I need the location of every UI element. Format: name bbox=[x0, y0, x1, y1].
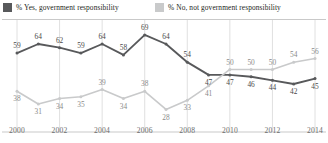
data-label: 69 bbox=[141, 23, 148, 32]
plot-area: 5964625964586964544747464442453831343539… bbox=[0, 20, 328, 143]
data-point bbox=[186, 99, 189, 102]
data-point bbox=[101, 88, 104, 91]
data-label: 64 bbox=[98, 32, 105, 41]
x-axis-tick-label: 2004 bbox=[94, 126, 110, 135]
data-point bbox=[37, 103, 40, 106]
data-label: 33 bbox=[184, 103, 191, 112]
data-label: 41 bbox=[205, 89, 212, 98]
data-label: 56 bbox=[311, 47, 318, 56]
data-label: 62 bbox=[56, 36, 63, 45]
data-point bbox=[101, 43, 104, 46]
data-label: 31 bbox=[35, 107, 42, 116]
data-label: 39 bbox=[98, 78, 105, 87]
data-label: 34 bbox=[56, 102, 63, 111]
legend-label-yes: % Yes, government responsibility bbox=[16, 3, 119, 12]
chart-legend: % Yes, government responsibility % No, n… bbox=[0, 0, 328, 20]
data-label: 47 bbox=[226, 78, 233, 87]
data-point bbox=[207, 73, 210, 76]
data-point bbox=[250, 75, 253, 78]
data-point bbox=[292, 61, 295, 64]
data-point bbox=[58, 97, 61, 100]
legend-label-no: % No, not government responsibility bbox=[168, 3, 281, 12]
data-point bbox=[250, 68, 253, 71]
data-label: 44 bbox=[269, 83, 276, 92]
data-label: 59 bbox=[13, 41, 20, 50]
chart-container: % Yes, government responsibility % No, n… bbox=[0, 0, 328, 143]
data-label: 64 bbox=[35, 32, 42, 41]
data-label: 45 bbox=[311, 82, 318, 91]
data-label: 54 bbox=[184, 50, 191, 59]
data-label: 38 bbox=[141, 79, 148, 88]
legend-swatch-yes bbox=[3, 3, 12, 12]
data-point bbox=[16, 90, 19, 93]
data-label: 64 bbox=[162, 32, 169, 41]
data-point bbox=[314, 77, 317, 80]
data-point bbox=[122, 97, 125, 100]
data-label: 28 bbox=[162, 113, 169, 122]
data-point bbox=[292, 83, 295, 86]
data-label: 38 bbox=[13, 94, 20, 103]
x-axis-tick-label: 2010 bbox=[222, 126, 238, 135]
data-point bbox=[228, 73, 231, 76]
data-label: 34 bbox=[120, 102, 127, 111]
data-label: 50 bbox=[269, 58, 276, 67]
data-label: 50 bbox=[247, 58, 254, 67]
data-point bbox=[79, 95, 82, 98]
x-axis-tick-label: 2012 bbox=[264, 126, 280, 135]
data-point bbox=[79, 52, 82, 55]
data-point bbox=[271, 79, 274, 82]
data-label: 59 bbox=[77, 41, 84, 50]
data-point bbox=[165, 108, 168, 111]
data-point bbox=[58, 46, 61, 49]
data-point bbox=[228, 68, 231, 71]
data-label: 54 bbox=[290, 50, 297, 59]
data-point bbox=[271, 68, 274, 71]
data-label: 42 bbox=[290, 87, 297, 96]
data-label: 47 bbox=[205, 78, 212, 87]
data-point bbox=[143, 33, 146, 36]
x-axis-tick-label: 2002 bbox=[52, 126, 68, 135]
x-axis-tick-label: 2006 bbox=[137, 126, 153, 135]
data-point bbox=[16, 52, 19, 55]
x-axis-labels: 20002002200420062008201020122014 bbox=[0, 126, 328, 143]
data-point bbox=[186, 61, 189, 64]
x-axis-tick-label: 2008 bbox=[179, 126, 195, 135]
data-point bbox=[165, 43, 168, 46]
legend-item-yes: % Yes, government responsibility bbox=[3, 3, 119, 12]
data-point bbox=[143, 90, 146, 93]
data-point bbox=[314, 57, 317, 60]
legend-swatch-no bbox=[155, 3, 164, 12]
x-axis-tick-label: 2014 bbox=[307, 126, 323, 135]
legend-item-no: % No, not government responsibility bbox=[155, 3, 281, 12]
x-axis-tick-label: 2000 bbox=[9, 126, 25, 135]
data-label: 35 bbox=[77, 100, 84, 109]
data-label: 50 bbox=[226, 58, 233, 67]
data-point bbox=[122, 53, 125, 56]
data-label: 58 bbox=[120, 43, 127, 52]
data-point bbox=[37, 43, 40, 46]
data-label: 46 bbox=[247, 80, 254, 89]
